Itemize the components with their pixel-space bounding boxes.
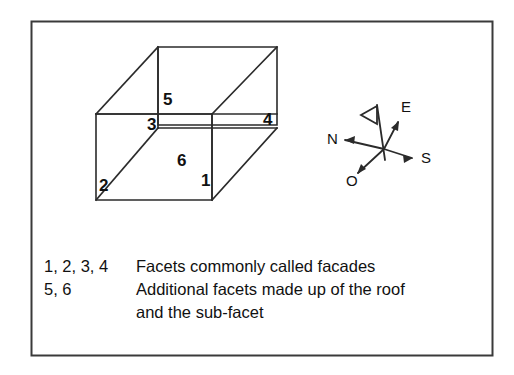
facet-label-2: 2 (99, 176, 108, 195)
facet-label-5: 5 (163, 90, 172, 109)
legend-row-1-keys: 1, 2, 3, 4 (44, 257, 108, 275)
facet-label-3: 3 (147, 115, 156, 134)
facet-label-6: 6 (177, 151, 186, 170)
legend-row-3-description: and the sub-facet (136, 303, 264, 321)
legend-block: 1, 2, 3, 4 Facets commonly called facade… (44, 257, 405, 321)
box-edge-topleft-receding (96, 47, 158, 114)
compass-label-n: N (327, 130, 338, 147)
legend-row-2-description: Additional facets made up of the roof (136, 280, 405, 298)
compass-label-s: S (421, 149, 431, 166)
compass-arrowhead-o (357, 164, 366, 174)
compass-arrowhead-e (391, 121, 399, 131)
facet-label-1: 1 (201, 171, 210, 190)
figure-canvas: 5 3 4 6 1 2 N E S O 1, 2, 3, 4 Facets co… (0, 0, 514, 375)
box-wireframe (96, 47, 277, 200)
compass-arrowhead-n (345, 136, 355, 144)
compass-flag-icon (361, 106, 377, 124)
facet-label-4: 4 (263, 110, 273, 129)
box-edge-topright-receding (212, 47, 277, 114)
box-edge-bottomright-receding (212, 128, 277, 200)
legend-row-1-description: Facets commonly called facades (136, 257, 375, 275)
legend-row-2-keys: 5, 6 (44, 280, 72, 298)
facet-labels-group: 5 3 4 6 1 2 (99, 90, 273, 195)
compass-label-o: O (346, 172, 358, 189)
compass-label-e: E (401, 98, 411, 115)
compass-rose: N E S O (327, 98, 431, 189)
